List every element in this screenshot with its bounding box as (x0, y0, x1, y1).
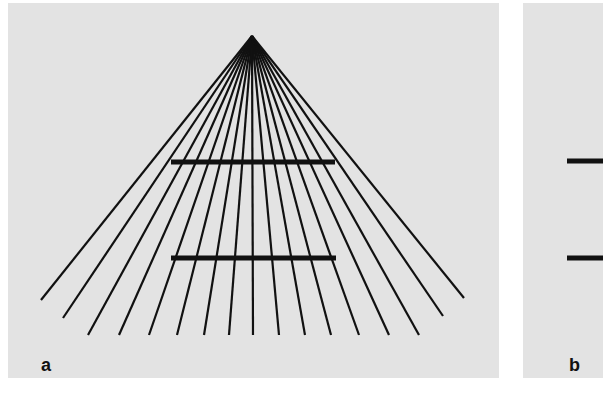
panel-label-a: a (41, 356, 51, 374)
converging-line (252, 36, 443, 316)
converging-line (63, 36, 252, 318)
converging-line (252, 36, 305, 335)
panel-label-b: b (569, 356, 580, 374)
bars-drawing (523, 3, 603, 378)
ponzo-illusion-drawing (8, 3, 499, 378)
converging-line (149, 36, 252, 335)
panel-a: a (8, 3, 499, 378)
converging-line (252, 36, 253, 335)
converging-line (252, 36, 389, 335)
converging-line (252, 36, 419, 335)
converging-line (252, 36, 359, 335)
converging-line (252, 36, 331, 335)
converging-line (252, 36, 279, 335)
panel-b: b (523, 3, 603, 378)
